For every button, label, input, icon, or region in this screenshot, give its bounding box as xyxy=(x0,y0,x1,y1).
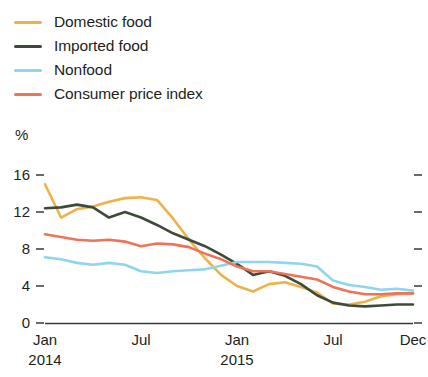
chart-series-line xyxy=(45,205,413,307)
x-axis-tick-label: Jul xyxy=(303,331,363,348)
y-axis-tick-label: 16 xyxy=(4,166,30,183)
x-axis-tick-label: Jul xyxy=(111,331,171,348)
y-axis-tick-label: 12 xyxy=(4,203,30,220)
y-axis-tick-label: 4 xyxy=(4,277,30,294)
chart-figure: Domestic food Imported food Nonfood Cons… xyxy=(0,0,428,377)
x-axis-tick-label: Jan xyxy=(207,331,267,348)
y-axis-tick-marks xyxy=(36,175,44,323)
y-axis-tick-label: 0 xyxy=(4,314,30,331)
x-axis-tick-label: Jan xyxy=(15,331,75,348)
x-axis-tick-year-label: 2014 xyxy=(15,351,75,368)
plot-area: 0481216 Jan2014JulJan2015JulDec xyxy=(0,0,428,377)
y-axis-tick-label: 8 xyxy=(4,240,30,257)
chart-svg xyxy=(0,0,428,377)
chart-series-group xyxy=(45,184,413,306)
x-axis-tick-year-label: 2015 xyxy=(207,351,267,368)
x-axis-tick-label: Dec xyxy=(383,331,428,348)
y-axis-tick-marks-right xyxy=(414,175,422,323)
